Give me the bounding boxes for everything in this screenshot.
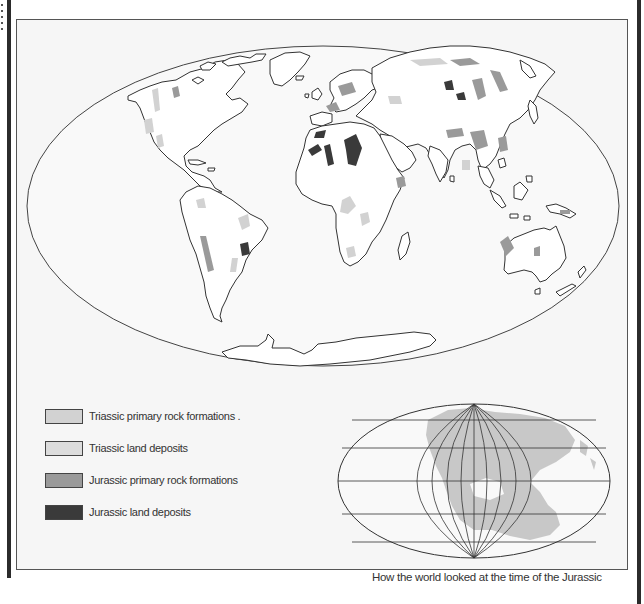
legend-label: Jurassic primary rock formations <box>89 474 238 486</box>
legend-label: Triassic land deposits <box>89 442 188 454</box>
swatch-triassic-primary <box>45 409 83 424</box>
legend-item-jurassic-primary: Jurassic primary rock formations <box>45 464 240 496</box>
legend-label: Triassic primary rock formations . <box>89 410 240 422</box>
jurassic-inset-globe <box>338 404 610 558</box>
swatch-jurassic-primary <box>45 473 83 488</box>
legend-item-triassic-land: Triassic land deposits <box>45 432 240 464</box>
map-legend: Triassic primary rock formations . Trias… <box>45 400 240 528</box>
swatch-jurassic-land <box>45 505 83 520</box>
legend-item-jurassic-land: Jurassic land deposits <box>45 496 240 528</box>
swatch-triassic-land <box>45 441 83 456</box>
legend-item-triassic-primary: Triassic primary rock formations . <box>45 400 240 432</box>
inset-caption: How the world looked at the time of the … <box>372 571 602 583</box>
legend-label: Jurassic land deposits <box>89 506 191 518</box>
